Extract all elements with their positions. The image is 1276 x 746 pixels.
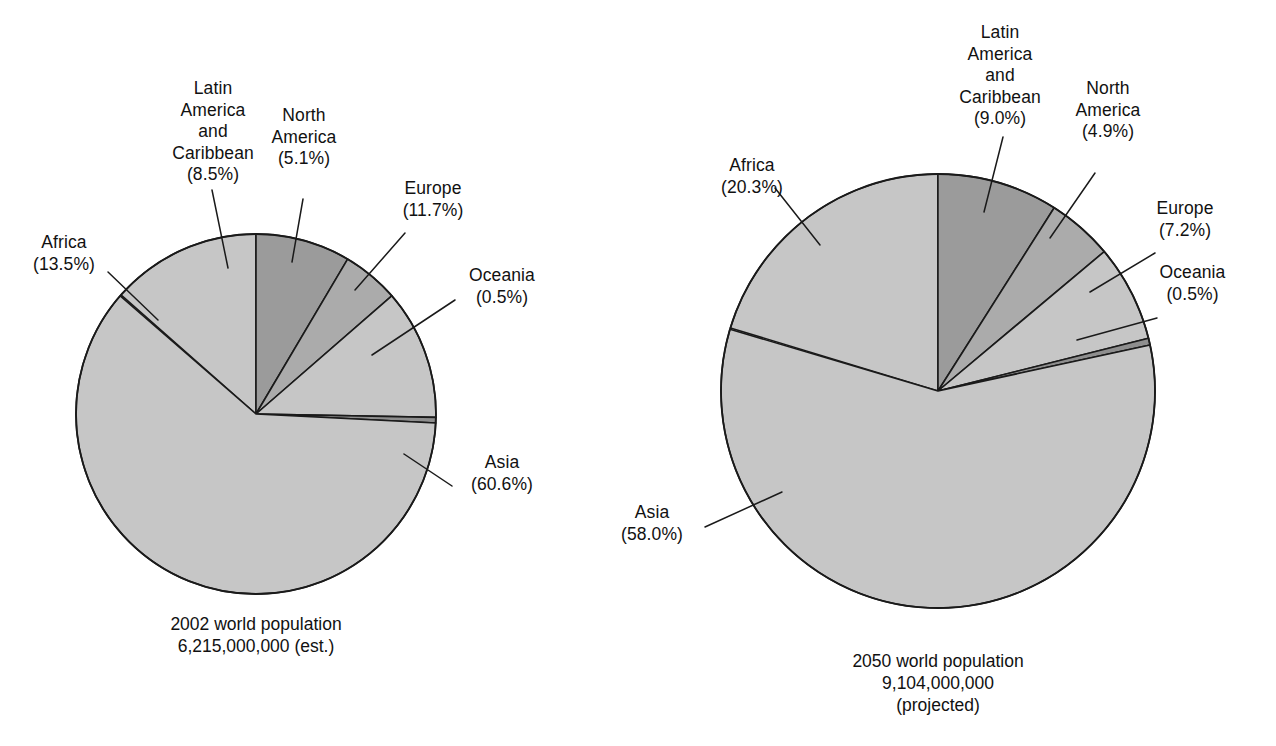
left-chart-caption: 2002 world population 6,215,000,000 (est…: [126, 613, 386, 657]
pie-chart-2002: [76, 234, 436, 594]
right-label-africa: Africa (20.3%): [697, 155, 807, 198]
left-label-oceania: Oceania (0.5%): [447, 265, 557, 308]
right-chart-caption: 2050 world population 9,104,000,000 (pro…: [808, 650, 1068, 716]
left-label-asia: Asia (60.6%): [447, 452, 557, 495]
population-pie-figure: Latin America and Caribbean (8.5%) North…: [0, 0, 1276, 746]
leader-line-left-europe: [355, 233, 405, 290]
left-label-africa: Africa (13.5%): [14, 232, 114, 275]
left-label-europe: Europe (11.7%): [378, 178, 488, 221]
left-label-north-america: North America (5.1%): [249, 105, 359, 170]
right-label-oceania: Oceania (0.5%): [1135, 262, 1250, 305]
right-label-latin-america: Latin America and Caribbean (9.0%): [930, 22, 1070, 130]
right-label-asia: Asia (58.0%): [597, 502, 707, 545]
pie-chart-2050: [721, 174, 1155, 608]
right-label-north-america: North America (4.9%): [1053, 78, 1163, 143]
right-label-europe: Europe (7.2%): [1130, 198, 1240, 241]
